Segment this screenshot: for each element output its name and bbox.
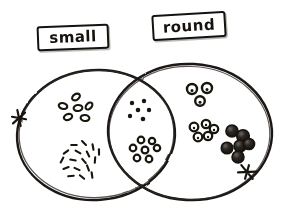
seed-item	[84, 101, 93, 111]
set-label-round[interactable]: round	[151, 11, 226, 41]
ball-item	[221, 142, 233, 154]
sliver-item	[79, 175, 85, 178]
ring-item	[204, 132, 212, 140]
cluster-round-only-mid-rings	[190, 120, 219, 142]
set-label-round-text: round	[162, 17, 215, 35]
sliver-item	[61, 157, 64, 162]
cluster-round-only-top-rings	[187, 83, 212, 106]
sliver-item	[70, 159, 75, 162]
ball-item	[243, 138, 254, 149]
dot-item	[136, 108, 141, 113]
cluster-small-only-rings	[58, 92, 94, 121]
cluster-round-only-dark-balls	[221, 125, 254, 163]
sliver-item	[81, 159, 86, 163]
ring-item	[146, 156, 153, 163]
cluster-small-only-slivers	[61, 141, 101, 179]
ring-item	[142, 147, 149, 154]
set-label-small-text: small	[49, 29, 97, 46]
sliver-item	[68, 174, 73, 178]
sliver-item	[64, 149, 68, 154]
ring-item	[154, 145, 160, 151]
sliver-item	[75, 151, 80, 154]
dot-item	[130, 101, 134, 105]
sliver-item	[90, 172, 94, 177]
knot-tie-mark-right	[237, 162, 257, 181]
sketch-canvas: small round	[0, 0, 281, 224]
set-circle-round	[105, 60, 276, 204]
ring-item	[190, 123, 199, 132]
cluster-intersection-rings	[130, 137, 161, 163]
seed-item	[58, 102, 68, 110]
cluster-intersection-dots	[128, 99, 151, 121]
ring-item	[149, 138, 155, 144]
dot-item	[142, 99, 146, 103]
ring-item	[202, 83, 212, 93]
seed-item	[80, 114, 90, 121]
seed-item	[63, 113, 73, 121]
seed-item	[73, 104, 83, 111]
ring-item	[194, 133, 203, 142]
dot-item	[147, 108, 151, 112]
sliver-item	[86, 165, 91, 170]
sliver-item	[97, 149, 100, 155]
ring-item	[187, 84, 197, 94]
ring-item	[134, 155, 141, 162]
sliver-item	[71, 143, 77, 146]
sliver-item	[91, 144, 95, 149]
sliver-item	[86, 152, 91, 157]
ring-item	[195, 96, 205, 106]
dot-item	[141, 117, 146, 122]
ball-item	[232, 151, 244, 163]
ring-item	[202, 120, 210, 128]
set-label-small[interactable]: small	[37, 24, 110, 52]
ring-item	[138, 137, 145, 144]
sliver-item	[63, 166, 68, 171]
sliver-item	[93, 157, 96, 162]
set-circle-small	[13, 65, 180, 206]
sliver-item	[74, 168, 79, 170]
sliver-item	[81, 141, 86, 145]
dot-item	[128, 114, 132, 118]
ring-item	[130, 145, 137, 152]
seed-item	[71, 92, 81, 102]
